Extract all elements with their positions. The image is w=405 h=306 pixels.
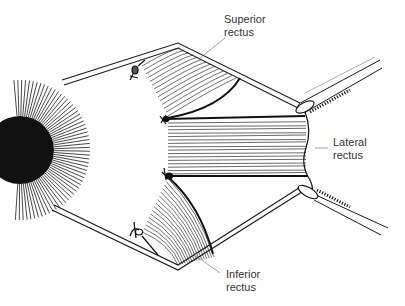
inferior-rectus-muscle: [142, 177, 214, 265]
label-line: Inferior: [226, 268, 260, 281]
eyeball: [0, 80, 90, 220]
label-superior-rectus: Superior rectus: [224, 13, 266, 39]
lower-retractor: [296, 183, 388, 235]
superior-rectus-muscle: [138, 46, 240, 118]
suture-inferior: [130, 222, 158, 255]
upper-retractor: [294, 57, 382, 116]
lateral-rectus-muscle: [165, 112, 313, 198]
label-line: rectus: [224, 26, 266, 39]
label-lateral-rectus: Lateral rectus: [333, 136, 367, 162]
label-line: Superior: [224, 13, 266, 26]
label-inferior-rectus: Inferior rectus: [226, 268, 260, 294]
inferior-rectus-leader: [196, 256, 220, 273]
suture-lateral-upper: [160, 115, 169, 124]
label-line: rectus: [333, 149, 367, 162]
superior-rectus-leader: [200, 38, 225, 58]
suture-lateral-lower: [162, 168, 173, 180]
label-line: rectus: [226, 281, 260, 294]
label-line: Lateral: [333, 136, 367, 149]
